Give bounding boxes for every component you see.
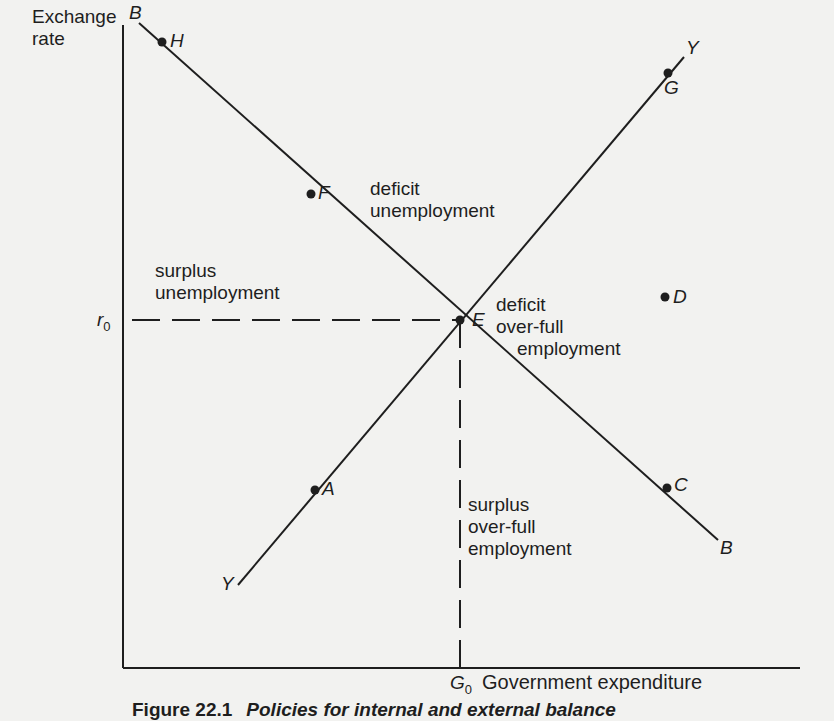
region-top-line1: deficit: [370, 178, 420, 200]
point-h-label: H: [170, 31, 184, 51]
point-e-label: E: [472, 310, 485, 330]
point-c-label: C: [674, 475, 688, 495]
y-axis-label-line2: rate: [32, 28, 65, 50]
point-h-dot: [158, 38, 167, 47]
region-bottom-line3: employment: [468, 538, 572, 560]
r0-tick-label: r0: [97, 310, 111, 337]
bb-start-label: B: [129, 3, 142, 23]
region-top-line2: unemployment: [370, 200, 495, 222]
yy-start-label: Y: [221, 574, 234, 594]
point-g-label: G: [664, 78, 679, 98]
g0-tick-label: G0: [450, 673, 472, 700]
point-d-label: D: [673, 287, 687, 307]
region-bottom-line1: surplus: [468, 494, 529, 516]
caption-title: Policies for internal and external balan…: [246, 699, 616, 720]
region-bottom-line2: over-full: [468, 516, 536, 538]
point-c-dot: [663, 484, 672, 493]
region-left-line1: surplus: [155, 260, 216, 282]
point-a-label: A: [322, 479, 335, 499]
bb-end-label: B: [720, 538, 733, 558]
point-f-dot: [307, 190, 316, 199]
region-right-line1: deficit: [496, 294, 546, 316]
yy-end-label: Y: [686, 38, 699, 58]
figure-caption: Figure 22.1Policies for internal and ext…: [132, 699, 616, 721]
x-axis-label: Government expenditure: [482, 671, 702, 693]
region-left-line2: unemployment: [155, 282, 280, 304]
caption-number: Figure 22.1: [132, 699, 232, 720]
point-f-label: F: [318, 183, 330, 203]
y-axis-label-line1: Exchange: [32, 6, 117, 28]
region-right-line3: employment: [517, 338, 621, 360]
region-right-line2: over-full: [496, 316, 564, 338]
point-a-dot: [311, 486, 320, 495]
point-d-dot: [661, 293, 670, 302]
point-e-dot: [456, 316, 465, 325]
